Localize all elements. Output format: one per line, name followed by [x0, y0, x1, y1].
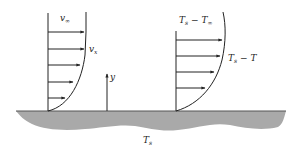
local-temperature-label: Ts − T	[228, 53, 257, 64]
surface-fill	[16, 111, 286, 131]
local-velocity-label: vx	[89, 44, 98, 55]
thermal-profile	[176, 12, 225, 111]
thermal-profile-curve	[176, 12, 225, 111]
surface	[16, 111, 286, 131]
y-axis: y	[107, 72, 116, 111]
y-axis-label: y	[109, 72, 116, 82]
boundary-layer-diagram: y v∞ vx Ts − T∞ Ts − T Ts	[0, 0, 301, 149]
free-stream-velocity-label: v∞	[60, 13, 70, 24]
free-stream-temperature-label: Ts − T∞	[179, 15, 212, 26]
velocity-profile	[48, 12, 86, 111]
surface-temperature-label: Ts	[143, 135, 152, 146]
velocity-profile-curve	[48, 12, 86, 111]
